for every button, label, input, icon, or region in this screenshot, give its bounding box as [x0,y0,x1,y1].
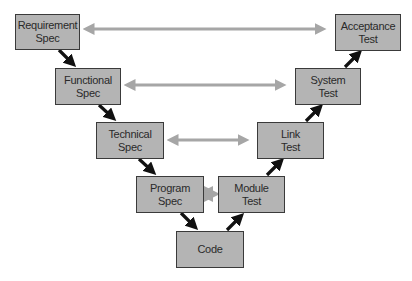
link-sys-arrow [306,108,319,121]
mod-link-arrow [267,162,280,175]
node-functional-spec: FunctionalSpec [55,68,121,105]
node-label: Test [281,141,300,154]
node-label: Spec [18,32,78,45]
code-mod-arrow [227,217,240,230]
node-label: Module [234,182,268,195]
node-label: Program [150,182,190,195]
correspondence-arrows [90,29,322,194]
node-label: Test [311,87,346,100]
node-label: Requirement [18,19,78,32]
node-requirement-spec: RequirementSpec [15,14,80,50]
node-label: Test [341,33,395,46]
node-program-spec: ProgramSpec [136,176,204,213]
sys-acc-arrow [345,54,358,67]
node-label: Link [281,128,300,141]
node-system-test: SystemTest [295,68,361,105]
req-func-arrow [59,50,72,63]
node-label: Test [234,195,268,208]
node-label: Acceptance [341,20,395,33]
node-label: Technical [108,128,151,141]
node-label: System [311,74,346,87]
node-acceptance-test: AcceptanceTest [335,14,401,51]
tech-prog-arrow [139,159,152,171]
node-label: Code [197,243,222,256]
node-label: Spec [150,195,190,208]
node-label: Spec [64,87,112,100]
node-label: Spec [108,141,151,154]
node-module-test: ModuleTest [218,176,285,213]
node-label: Functional [64,74,112,87]
v-model-diagram: RequirementSpec FunctionalSpec Technical… [0,0,412,281]
node-code: Code [176,231,244,268]
node-technical-spec: TechnicalSpec [96,122,164,159]
node-link-test: LinkTest [257,122,324,159]
prog-code-arrow [181,213,194,226]
func-tech-arrow [99,105,112,117]
